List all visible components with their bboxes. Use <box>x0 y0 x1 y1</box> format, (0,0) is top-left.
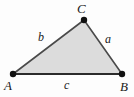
vertex-label-B: B <box>120 80 128 93</box>
vertex-dot-B <box>119 71 125 77</box>
vertex-label-C: C <box>77 2 86 15</box>
triangle-figure: A B C a b c <box>0 0 134 97</box>
vertex-label-A: A <box>4 79 12 92</box>
vertex-dot-C <box>81 17 87 23</box>
side-label-a: a <box>105 33 111 45</box>
vertex-dot-A <box>10 71 16 77</box>
triangle-shape <box>13 20 122 74</box>
side-label-b: b <box>38 31 44 43</box>
side-label-c: c <box>64 79 69 91</box>
